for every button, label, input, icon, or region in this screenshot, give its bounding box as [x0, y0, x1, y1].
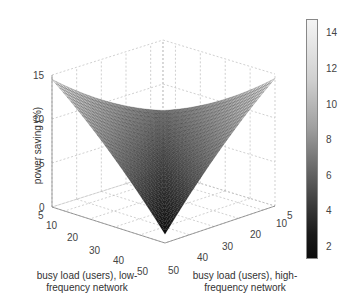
colorbar-tick-label: 8 — [326, 134, 332, 145]
x-tick-label: 30 — [89, 245, 100, 256]
z-tick-label: 15 — [33, 70, 44, 81]
colorbar-tick-label: 4 — [326, 205, 332, 216]
x-axis-label: busy load (users), low- frequency networ… — [22, 270, 152, 294]
x-tick-label: 50 — [137, 266, 148, 277]
z-tick-label: 10 — [33, 114, 44, 125]
x-tick-label: 20 — [67, 232, 78, 243]
y-tick-label: 20 — [250, 229, 261, 240]
colorbar-tick-label: 12 — [326, 63, 337, 74]
z-tick-label: 5 — [39, 158, 45, 169]
colorbar-tick-label: 6 — [326, 170, 332, 181]
x-tick-label: 5 — [38, 210, 44, 221]
colorbar-tick-label: 10 — [326, 99, 337, 110]
y-tick-label: 40 — [197, 252, 208, 263]
surface-plot — [0, 0, 346, 308]
y-tick-label: 30 — [222, 241, 233, 252]
colorbar — [306, 19, 318, 259]
y-tick-label: 10 — [276, 218, 287, 229]
x-tick-label: 10 — [46, 220, 57, 231]
y-tick-label: 50 — [168, 265, 179, 276]
colorbar-tick-label: 14 — [326, 27, 337, 38]
x-tick-label: 40 — [113, 255, 124, 266]
y-axis-label: busy load (users), high- frequency netwo… — [180, 270, 310, 294]
y-tick-label: 5 — [287, 210, 293, 221]
colorbar-tick-label: 2 — [326, 241, 332, 252]
